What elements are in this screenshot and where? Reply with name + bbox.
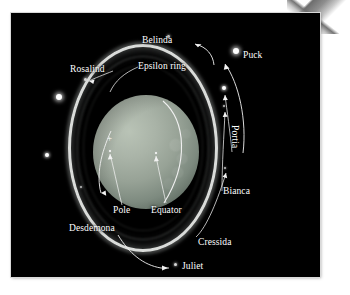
- label-rosalind: Rosalind: [70, 65, 105, 75]
- arrowhead-belinda: [195, 44, 202, 47]
- photo-scene: +: [11, 13, 320, 277]
- label-pole: Pole: [113, 206, 130, 216]
- label-epsilon-ring: Epsilon ring: [138, 62, 186, 72]
- label-portia: Portia: [230, 125, 240, 148]
- moon-cressida: [224, 167, 226, 169]
- moon-puck: [233, 48, 239, 54]
- pole-cross-marker: +: [107, 134, 112, 143]
- label-puck: Puck: [243, 51, 262, 61]
- unlabeled-moon-lower-left: [45, 153, 49, 157]
- label-juliet: Juliet: [182, 262, 203, 272]
- label-bianca: Bianca: [223, 187, 250, 197]
- arrowhead-juliet: [162, 266, 168, 271]
- uranus-ring-photograph: +: [11, 13, 320, 277]
- label-desdemona: Desdemona: [69, 224, 115, 234]
- moon-juliet: [174, 263, 177, 266]
- leader-bianca: [222, 112, 225, 191]
- label-belinda: Belinda: [142, 36, 172, 46]
- leader-belinda: [195, 44, 214, 65]
- moon-portia: [222, 86, 226, 90]
- unlabeled-moon-upper-left: [56, 94, 62, 100]
- arrowhead-puck: [224, 64, 230, 70]
- uranus-limb-shading: [93, 95, 199, 209]
- moon-rosalind: [84, 78, 87, 81]
- moon-bianca: [223, 105, 225, 107]
- arrowhead-bianca: [223, 112, 228, 117]
- label-equator: Equator: [151, 206, 182, 216]
- arrowhead-cressida: [223, 173, 228, 178]
- label-cressida: Cressida: [198, 238, 232, 248]
- arrowhead-portia: [223, 95, 228, 100]
